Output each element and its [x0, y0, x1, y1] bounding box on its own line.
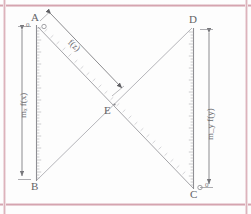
point-marker-A	[42, 24, 46, 28]
point-label-C: C	[190, 189, 197, 200]
point-label-B: B	[31, 181, 38, 192]
scale-origin-label-C: 0	[205, 182, 209, 189]
point-label-D: D	[189, 14, 197, 25]
dimension-line-diagonal	[40, 13, 124, 97]
segment-AB	[37, 25, 42, 181]
dimension-label-right: m_y f(y)	[206, 108, 215, 140]
point-marker-E	[113, 103, 115, 105]
point-label-E: E	[104, 105, 111, 116]
segment-DC	[189, 28, 194, 189]
scanned-figure-page: A B C D E 0 0 mₓ f(x) m_y f(y) f(z)	[0, 0, 251, 214]
point-label-A: A	[31, 12, 39, 23]
dimension-label-left: mₓ f(x)	[19, 93, 28, 118]
segment-AC	[38, 27, 193, 188]
scale-origin-label-A: 0	[26, 22, 30, 29]
